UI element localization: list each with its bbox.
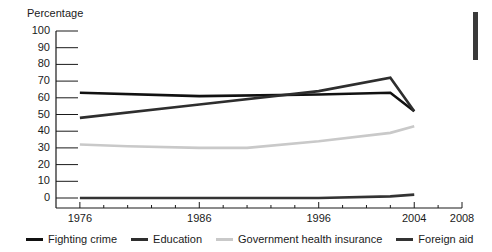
legend-item[interactable]: Government health insurance <box>216 233 382 245</box>
legend-line-icon <box>216 238 233 241</box>
x-axis-tick-label: 1976 <box>68 213 92 224</box>
series-line <box>80 78 414 118</box>
x-axis-tick-label: 1996 <box>306 213 330 224</box>
legend-label: Foreign aid <box>418 233 473 245</box>
x-axis-tick-label: 2004 <box>402 213 426 224</box>
y-axis-tick-label: 60 <box>24 92 50 103</box>
side-bar-marker <box>473 12 478 60</box>
legend-label: Government health insurance <box>238 233 382 245</box>
legend-line-icon <box>131 238 148 241</box>
x-axis-tick-label: 2008 <box>450 213 474 224</box>
chart-legend: Fighting crimeEducationGovernment health… <box>26 231 466 247</box>
y-axis-tick-label: 30 <box>24 142 50 153</box>
series-line <box>80 195 414 198</box>
y-axis-tick-label: 100 <box>24 25 50 36</box>
series-line <box>80 126 414 148</box>
y-axis-tick-label: 40 <box>24 125 50 136</box>
y-axis-tick-label: 20 <box>24 159 50 170</box>
y-axis-tick-label: 80 <box>24 58 50 69</box>
legend-line-icon <box>396 238 413 241</box>
legend-label: Fighting crime <box>48 233 117 245</box>
y-axis-tick-label: 10 <box>24 175 50 186</box>
legend-item[interactable]: Fighting crime <box>26 233 117 245</box>
y-axis-tick-label: 50 <box>24 109 50 120</box>
y-axis-tick-label: 0 <box>24 192 50 203</box>
legend-line-icon <box>26 238 43 241</box>
x-axis-tick-label: 1986 <box>187 213 211 224</box>
legend-item[interactable]: Foreign aid <box>396 233 473 245</box>
line-chart: Percentage 1009080706050403020100 197619… <box>0 0 492 252</box>
y-axis-tick-label: 70 <box>24 75 50 86</box>
series-line <box>80 93 414 111</box>
legend-item[interactable]: Education <box>131 233 202 245</box>
legend-label: Education <box>153 233 202 245</box>
y-axis-tick-label: 90 <box>24 42 50 53</box>
